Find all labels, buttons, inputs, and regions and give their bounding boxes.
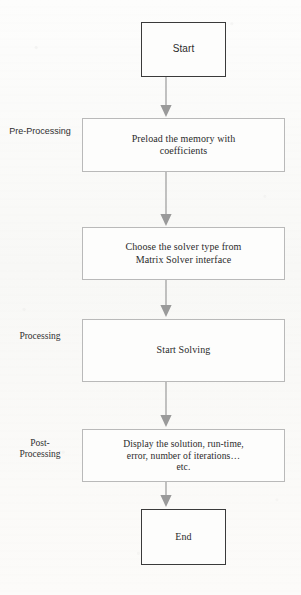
node-start-solving[interactable]: Start Solving: [82, 319, 285, 382]
stage-caption-processing: Processing: [2, 331, 78, 342]
stage-caption-pre-processing: Pre-Processing: [2, 126, 78, 137]
node-start-label: Start: [167, 43, 201, 55]
node-choose-solver-label: Choose the solver type from Matrix Solve…: [119, 241, 247, 265]
node-preload-memory-label: Preload the memory with coefficients: [126, 133, 242, 157]
connector-preload-to-choose: [155, 171, 177, 229]
paper-texture: [0, 0, 301, 595]
flowchart-page: Start Preload the memory with coefficien…: [0, 0, 301, 595]
node-start-solving-label: Start Solving: [151, 344, 217, 356]
connector-start-to-preload: [155, 76, 177, 120]
node-start[interactable]: Start: [141, 22, 226, 77]
connector-display-to-end: [155, 481, 177, 510]
connector-solve-to-display: [155, 381, 177, 430]
node-end[interactable]: End: [141, 509, 226, 565]
node-end-label: End: [169, 531, 197, 543]
node-display-results-label: Display the solution, run-time, error, n…: [117, 438, 250, 473]
node-preload-memory[interactable]: Preload the memory with coefficients: [82, 118, 285, 172]
node-display-results[interactable]: Display the solution, run-time, error, n…: [82, 429, 285, 482]
stage-caption-post-processing: Post- Processing: [2, 438, 78, 461]
connector-choose-to-solve: [155, 279, 177, 320]
scan-streak-overlay: [0, 0, 301, 595]
node-choose-solver[interactable]: Choose the solver type from Matrix Solve…: [82, 227, 285, 280]
